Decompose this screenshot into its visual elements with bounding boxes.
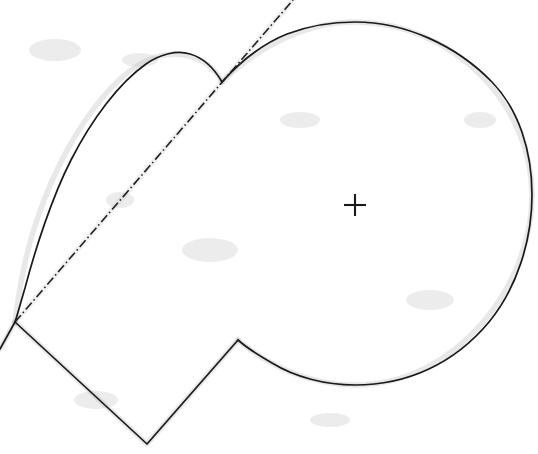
figure-canvas: Limacon with tangent line, chord polylin… <box>0 0 538 454</box>
geometric-figure-svg <box>0 0 538 454</box>
